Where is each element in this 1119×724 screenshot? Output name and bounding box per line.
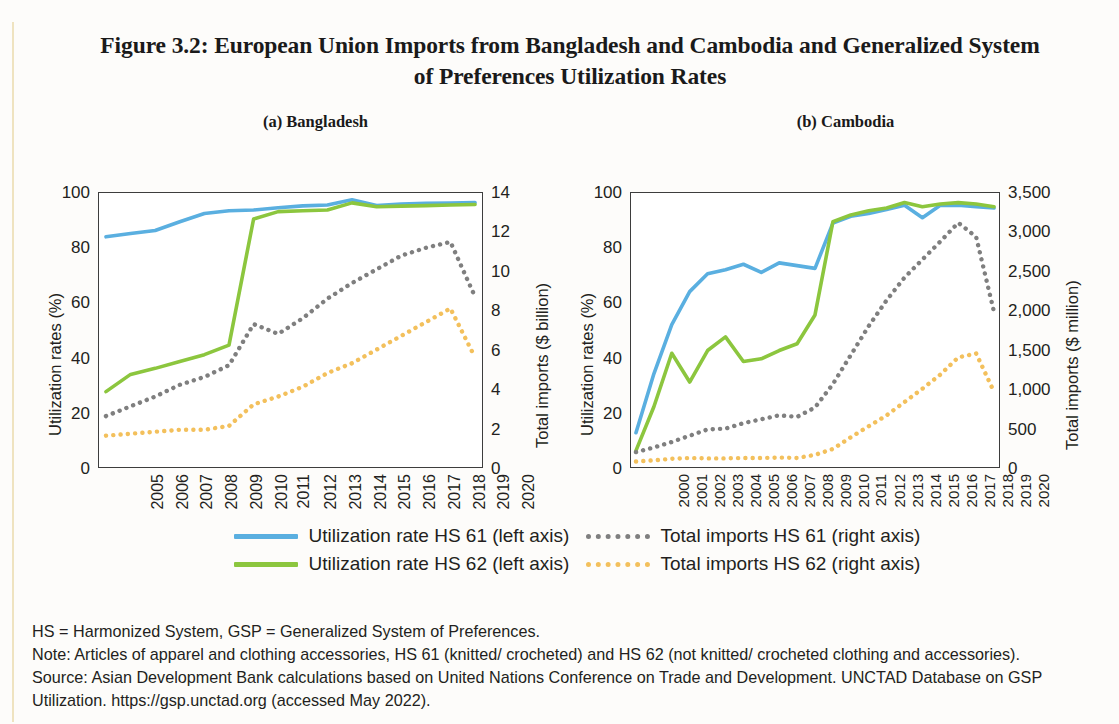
y-tick-label: 0 xyxy=(613,460,622,477)
x-tick-label: 2016 xyxy=(963,474,980,507)
series-line-3 xyxy=(106,308,475,435)
y-tick-label: 60 xyxy=(603,294,622,311)
y2-axis-title-cambodia: Total imports ($ million) xyxy=(1063,280,1082,450)
y-tick-label: 20 xyxy=(603,404,622,421)
x-tick-label: 2004 xyxy=(747,474,764,507)
figure-title-line-1: Figure 3.2: European Union Imports from … xyxy=(40,30,1100,61)
chart-legend: Utilization rate HS 61 (left axis) Total… xyxy=(0,525,1119,581)
x-tick-label: 2013 xyxy=(909,474,926,507)
series-line-3 xyxy=(636,353,994,461)
x-tick-label: 2017 xyxy=(981,474,998,507)
x-tick-label: 2009 xyxy=(837,474,854,507)
x-tick-label: 2002 xyxy=(711,474,728,507)
y-tick-label: 20 xyxy=(71,404,90,421)
x-tick-label: 2019 xyxy=(495,474,513,510)
x-tick-label: 2012 xyxy=(891,474,908,507)
note-source-line-2: Utilization. https://gsp.unctad.org (acc… xyxy=(32,689,1102,712)
note-line: Note: Articles of apparel and clothing a… xyxy=(32,643,1102,666)
y-tick-label: 100 xyxy=(594,184,622,201)
y2-tick-label: 10 xyxy=(491,262,510,279)
x-tick-label: 2010 xyxy=(272,474,290,510)
page-edge-rule xyxy=(12,22,14,722)
x-tick-label: 2010 xyxy=(855,474,872,507)
x-tick-label: 2011 xyxy=(296,474,314,508)
x-tick-label: 2007 xyxy=(198,474,216,510)
legend-swatch-hs62-rate xyxy=(234,562,298,567)
note-abbreviations: HS = Harmonized System, GSP = Generalize… xyxy=(32,620,1102,643)
x-tick-label: 2014 xyxy=(371,474,389,510)
legend-item-hs61-imports: Total imports HS 61 (right axis) xyxy=(586,525,886,547)
x-tick-label: 2015 xyxy=(396,474,414,510)
figure-notes: HS = Harmonized System, GSP = Generalize… xyxy=(32,620,1102,713)
y2-axis-ticks-bangladesh: 02468101214 xyxy=(491,192,539,468)
x-tick-label: 2016 xyxy=(421,474,439,510)
legend-swatch-hs62-imports xyxy=(586,562,650,567)
x-tick-label: 2015 xyxy=(945,474,962,507)
y2-tick-label: 4 xyxy=(491,381,500,398)
y2-axis-ticks-cambodia: 05001,0001,5002,0002,5003,0003,500 xyxy=(1008,192,1056,468)
y2-tick-label: 6 xyxy=(491,341,500,358)
x-tick-label: 2007 xyxy=(801,474,818,507)
x-tick-label: 2000 xyxy=(675,474,692,507)
x-tick-label: 2005 xyxy=(149,474,167,510)
series-line-0 xyxy=(636,205,994,432)
plot-area-cambodia: Utilization rates (%) Total imports ($ m… xyxy=(560,148,1105,448)
x-tick-label: 2020 xyxy=(520,474,538,510)
x-tick-label: 2005 xyxy=(765,474,782,507)
plot-area-bangladesh: Utilization rates (%) Total imports ($ b… xyxy=(28,148,573,448)
legend-label-hs62-imports: Total imports HS 62 (right axis) xyxy=(661,553,921,575)
x-tick-label: 2018 xyxy=(999,474,1016,507)
figure-page: Figure 3.2: European Union Imports from … xyxy=(0,0,1119,724)
legend-item-hs62-rate: Utilization rate HS 62 (left axis) xyxy=(234,553,534,575)
y2-tick-label: 2,500 xyxy=(1008,262,1051,279)
y2-tick-label: 1,000 xyxy=(1008,381,1051,398)
y-axis-ticks-cambodia: 020406080100 xyxy=(574,192,622,468)
y-tick-label: 40 xyxy=(603,349,622,366)
x-tick-label: 2011 xyxy=(872,474,889,506)
legend-swatch-hs61-imports xyxy=(586,534,650,539)
series-line-2 xyxy=(636,223,994,452)
legend-row-2: Utilization rate HS 62 (left axis) Total… xyxy=(0,553,1119,575)
note-source-line-1: Source: Asian Development Bank calculati… xyxy=(32,666,1102,689)
y2-tick-label: 2,000 xyxy=(1008,302,1051,319)
legend-item-hs62-imports: Total imports HS 62 (right axis) xyxy=(586,553,886,575)
y2-tick-label: 500 xyxy=(1008,420,1036,437)
figure-title: Figure 3.2: European Union Imports from … xyxy=(40,30,1100,93)
y2-tick-label: 3,500 xyxy=(1008,184,1051,201)
legend-row-1: Utilization rate HS 61 (left axis) Total… xyxy=(0,525,1119,547)
x-tick-label: 2006 xyxy=(783,474,800,507)
chart-panel-cambodia: (b) Cambodia Utilization rates (%) Total… xyxy=(560,112,1105,448)
x-tick-label: 2003 xyxy=(729,474,746,507)
figure-title-line-2: of Preferences Utilization Rates xyxy=(40,61,1100,92)
plot-box-cambodia xyxy=(630,192,1000,468)
y-axis-ticks-bangladesh: 020406080100 xyxy=(42,192,90,468)
legend-item-hs61-rate: Utilization rate HS 61 (left axis) xyxy=(234,525,534,547)
x-tick-label: 2013 xyxy=(346,474,364,510)
x-tick-label: 2008 xyxy=(223,474,241,510)
series-line-1 xyxy=(636,203,994,451)
x-tick-label: 2019 xyxy=(1017,474,1034,507)
y-tick-label: 80 xyxy=(71,239,90,256)
x-tick-label: 2009 xyxy=(248,474,266,510)
y-tick-label: 100 xyxy=(62,184,90,201)
y2-tick-label: 1,500 xyxy=(1008,341,1051,358)
x-tick-label: 2020 xyxy=(1035,474,1052,507)
y2-tick-label: 12 xyxy=(491,223,510,240)
x-tick-label: 2001 xyxy=(693,474,710,507)
y-tick-label: 40 xyxy=(71,349,90,366)
x-tick-label: 2014 xyxy=(927,474,944,507)
y2-tick-label: 3,000 xyxy=(1008,223,1051,240)
x-tick-label: 2012 xyxy=(322,474,340,510)
legend-label-hs61-imports: Total imports HS 61 (right axis) xyxy=(661,525,921,547)
legend-label-hs62-rate: Utilization rate HS 62 (left axis) xyxy=(309,553,570,575)
y-tick-label: 80 xyxy=(603,239,622,256)
x-tick-label: 2008 xyxy=(819,474,836,507)
panel-title-bangladesh: (a) Bangladesh xyxy=(28,112,573,132)
y2-tick-label: 8 xyxy=(491,302,500,319)
y-tick-label: 60 xyxy=(71,294,90,311)
legend-label-hs61-rate: Utilization rate HS 61 (left axis) xyxy=(309,525,570,547)
chart-panel-bangladesh: (a) Bangladesh Utilization rates (%) Tot… xyxy=(28,112,573,448)
plot-box-bangladesh xyxy=(98,192,483,468)
x-tick-label: 2018 xyxy=(470,474,488,510)
series-line-1 xyxy=(106,203,475,392)
